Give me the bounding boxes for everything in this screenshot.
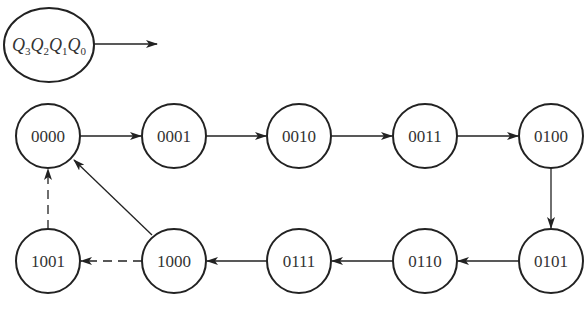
svg-text:0100: 0100 [534, 127, 568, 146]
svg-text:0111: 0111 [283, 252, 316, 271]
legend-label: Q3Q2Q1Q0 [12, 35, 87, 57]
svg-text:0010: 0010 [282, 127, 316, 146]
state-1001: 1001 [16, 229, 80, 293]
svg-text:0101: 0101 [534, 252, 568, 271]
svg-text:1000: 1000 [157, 252, 191, 271]
state-0001: 0001 [142, 104, 206, 168]
state-0101: 0101 [519, 229, 583, 293]
state-0111: 0111 [267, 229, 331, 293]
svg-text:0110: 0110 [408, 252, 441, 271]
svg-text:0011: 0011 [408, 127, 441, 146]
svg-text:0000: 0000 [31, 127, 65, 146]
transition-1000-0000 [74, 160, 152, 235]
state-0000: 0000 [16, 104, 80, 168]
svg-text:1001: 1001 [31, 252, 65, 271]
state-0110: 0110 [393, 229, 457, 293]
state-diagram: Q3Q2Q1Q0 0000 0001 0010 0011 0100 0101 0… [0, 0, 587, 311]
legend: Q3Q2Q1Q0 [4, 8, 157, 82]
state-0010: 0010 [267, 104, 331, 168]
state-1000: 1000 [142, 229, 206, 293]
svg-text:0001: 0001 [157, 127, 191, 146]
state-0100: 0100 [519, 104, 583, 168]
state-0011: 0011 [393, 104, 457, 168]
